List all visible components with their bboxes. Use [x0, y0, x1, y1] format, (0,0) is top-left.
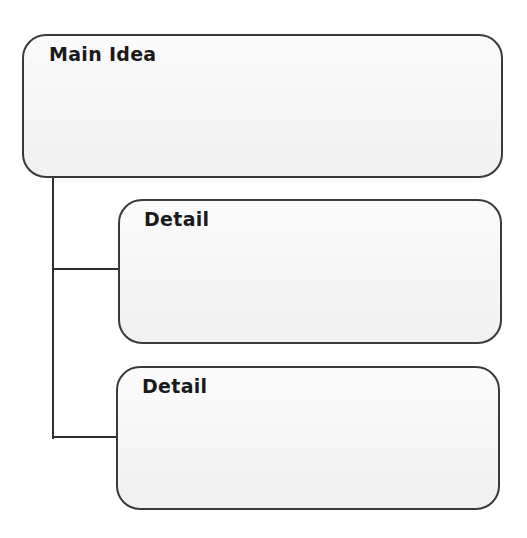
detail-box-1[interactable]: Detail [118, 199, 502, 344]
main-idea-box[interactable]: Main Idea [22, 34, 503, 178]
detail-title-1: Detail [144, 210, 209, 229]
detail-title-2: Detail [142, 377, 207, 396]
main-idea-title: Main Idea [49, 45, 156, 64]
connector-detail-1 [52, 268, 118, 270]
connector-vertical [52, 178, 54, 439]
detail-box-2[interactable]: Detail [116, 366, 500, 510]
connector-detail-2 [52, 436, 117, 438]
